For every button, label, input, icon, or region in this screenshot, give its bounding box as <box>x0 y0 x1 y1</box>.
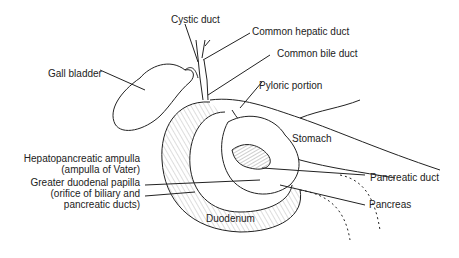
label-pancreatic-duct: Pancreatic duct <box>370 172 439 183</box>
label-common-hepatic-duct: Common hepatic duct <box>252 26 349 37</box>
label-ampulla-of-vater: (ampulla of Vater) <box>61 164 140 175</box>
label-duodenum: Duodenum <box>206 213 255 224</box>
label-greater-duodenal-papilla: Greater duodenal papilla <box>30 177 140 188</box>
label-papilla-orifice-line1: (orifice of biliary and <box>51 188 140 199</box>
label-common-bile-duct: Common bile duct <box>277 48 358 59</box>
label-cystic-duct: Cystic duct <box>171 14 220 25</box>
label-gall-bladder: Gall bladder <box>48 68 102 79</box>
label-stomach: Stomach <box>292 133 331 144</box>
label-pyloric-portion: Pyloric portion <box>259 80 322 91</box>
label-hepatopancreatic-ampulla: Hepatopancreatic ampulla <box>24 153 140 164</box>
anatomy-diagram: Cystic duct Common hepatic duct Common b… <box>0 0 459 258</box>
label-papilla-orifice-line2: pancreatic ducts) <box>64 199 140 210</box>
label-pancreas: Pancreas <box>369 199 411 210</box>
